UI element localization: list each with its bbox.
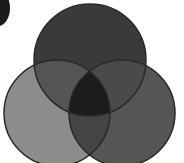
venn-diagram xyxy=(0,0,184,163)
